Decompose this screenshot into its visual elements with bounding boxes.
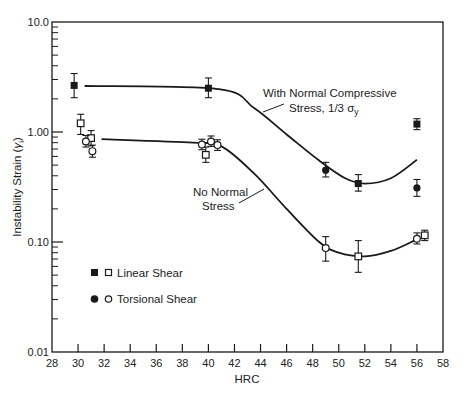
data-point-open-circle — [322, 237, 329, 262]
legend-item-torsional-shear: Torsional Shear — [91, 293, 197, 305]
svg-text:Stress, 1/3 σy: Stress, 1/3 σy — [289, 102, 359, 117]
x-tick-label: 34 — [124, 357, 136, 369]
open-circle-marker-icon — [198, 141, 205, 148]
svg-text:Linear Shear: Linear Shear — [117, 267, 183, 279]
annotation-leader-line — [263, 104, 284, 112]
fit-curve — [102, 139, 415, 256]
open-circle-marker-icon — [208, 138, 215, 145]
x-tick-label: 58 — [437, 357, 449, 369]
open-circle-marker-icon — [414, 235, 421, 242]
y-tick-label: 10.0 — [28, 16, 49, 28]
open-circle-marker-icon — [82, 138, 89, 145]
svg-text:No Normal: No Normal — [193, 186, 248, 198]
x-tick-label: 44 — [254, 357, 266, 369]
x-tick-label: 50 — [333, 357, 345, 369]
y-axis-ticks: 0.010.101.0010.0 — [28, 16, 63, 358]
x-tick-label: 40 — [202, 357, 214, 369]
x-tick-label: 28 — [46, 357, 58, 369]
data-point-open-square — [355, 241, 362, 273]
x-tick-label: 48 — [307, 357, 319, 369]
filled-circle-marker-icon — [413, 184, 420, 191]
filled-circle-marker-icon — [322, 167, 329, 174]
open-circle-marker-icon — [214, 142, 221, 149]
data-point-filled-square — [355, 175, 362, 192]
fit-curves — [85, 86, 417, 256]
data-point-filled-square — [71, 74, 78, 98]
y-tick-label: 1.00 — [28, 126, 49, 138]
x-axis-title: HRC — [235, 373, 260, 385]
filled-square-marker-icon — [413, 121, 420, 128]
svg-text:Stress: Stress — [202, 200, 235, 212]
y-axis-title: Instability Strain (γi) — [11, 137, 26, 237]
filled-square-marker-icon — [205, 85, 212, 92]
x-tick-label: 42 — [228, 357, 240, 369]
annotation-no-normal-stress: No Normal Stress — [193, 186, 264, 212]
instability-strain-chart: 28303234363840424446485052545658 0.010.1… — [0, 0, 464, 393]
annotation-with-normal-compressive-stress: With Normal Compressive Stress, 1/3 σy — [263, 87, 397, 117]
y-tick-label: 0.01 — [28, 346, 49, 358]
legend-item-linear-shear: Linear Shear — [91, 267, 183, 279]
x-tick-label: 32 — [98, 357, 110, 369]
data-point-open-circle — [208, 136, 215, 146]
data-point-open-square — [421, 230, 428, 240]
data-point-open-circle — [198, 139, 205, 150]
x-tick-label: 38 — [176, 357, 188, 369]
x-axis-ticks: 28303234363840424446485052545658 — [46, 344, 449, 369]
data-point-open-square — [77, 114, 84, 134]
x-tick-label: 52 — [359, 357, 371, 369]
x-tick-label: 54 — [385, 357, 397, 369]
data-point-filled-circle — [413, 179, 420, 196]
x-tick-label: 30 — [72, 357, 84, 369]
data-point-filled-square — [205, 78, 212, 98]
open-square-marker-icon — [106, 270, 112, 276]
filled-square-marker-icon — [355, 180, 362, 187]
filled-square-marker-icon — [71, 82, 78, 89]
y-tick-label: 0.10 — [28, 236, 49, 248]
open-square-marker-icon — [77, 120, 84, 127]
data-point-filled-square — [413, 119, 420, 130]
open-circle-marker-icon — [105, 296, 111, 302]
open-circle-marker-icon — [89, 148, 96, 155]
legend: Linear Shear Torsional Shear — [91, 267, 197, 305]
open-square-marker-icon — [355, 253, 362, 260]
svg-text:With Normal Compressive: With Normal Compressive — [263, 87, 397, 99]
data-point-open-circle — [413, 233, 420, 244]
fit-curve — [85, 86, 417, 184]
filled-circle-marker-icon — [91, 295, 99, 303]
open-square-marker-icon — [421, 232, 428, 239]
open-square-marker-icon — [202, 152, 209, 159]
x-tick-label: 46 — [280, 357, 292, 369]
filled-square-marker-icon — [91, 269, 98, 276]
x-tick-label: 56 — [411, 357, 423, 369]
open-circle-marker-icon — [322, 245, 329, 252]
x-tick-label: 36 — [150, 357, 162, 369]
svg-text:Torsional Shear: Torsional Shear — [117, 293, 197, 305]
data-point-open-circle — [214, 140, 221, 151]
data-point-open-circle — [89, 145, 96, 157]
